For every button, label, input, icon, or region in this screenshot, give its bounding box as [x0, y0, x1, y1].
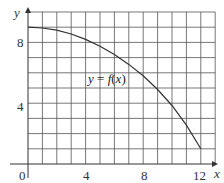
x-tick-12: 12 [193, 168, 206, 183]
x-tick-8: 8 [141, 168, 148, 183]
x-tick-4: 4 [83, 168, 90, 183]
x-axis-label: x [213, 166, 220, 181]
grid-lines [28, 12, 215, 164]
curve-label: y = f(x) [86, 71, 126, 86]
y-tick-4: 4 [17, 99, 24, 114]
function-graph: y x 0 4 8 12 4 8 y = f(x) [0, 0, 224, 183]
y-axis-arrow-icon [25, 7, 31, 13]
y-tick-8: 8 [17, 35, 24, 50]
origin-label: 0 [19, 168, 26, 183]
y-axis-label: y [12, 5, 20, 20]
